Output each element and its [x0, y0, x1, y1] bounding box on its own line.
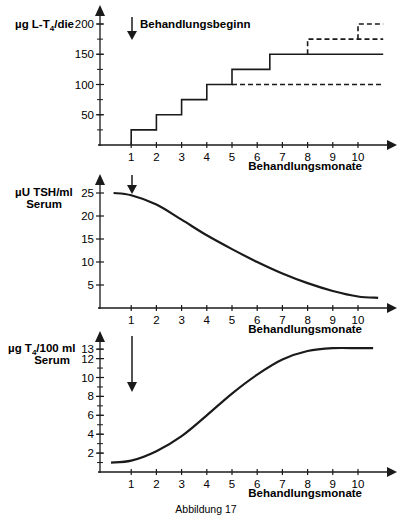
y-tick-label: 150: [75, 48, 94, 60]
series-line: [358, 24, 383, 39]
x-axis-label: Behandlungsmonate: [248, 323, 362, 335]
series: [111, 348, 373, 463]
x-axis-arrow-icon: [387, 303, 397, 313]
y-axis-label-line1: µU TSH/ml: [15, 186, 73, 198]
x-tick-label: 5: [229, 314, 235, 326]
x-tick-label: 1: [128, 314, 134, 326]
series: [114, 193, 379, 298]
x-tick-label: 2: [153, 478, 159, 490]
x-tick-label: 1: [128, 151, 134, 163]
figure: µg L-T4/die 50100150200 12345678910 Beha…: [0, 0, 401, 521]
treatment-start-arrow-icon: [127, 17, 137, 40]
y-tick-label: 10: [81, 372, 94, 384]
x-axis-label: Behandlungsmonate: [248, 487, 362, 499]
y-axis-label-line2: Serum: [26, 198, 62, 210]
chart-tsh: µU TSH/ml Serum 510152025 12345678910 Be…: [15, 174, 397, 335]
y-tick-label: 25: [81, 187, 94, 199]
y-axis-label-line2: Serum: [34, 354, 70, 366]
y-axis-arrow-icon: [95, 331, 105, 342]
y-tick-label: 8: [88, 390, 94, 402]
x-tick-label: 5: [229, 478, 235, 490]
y-axis-arrow-icon: [95, 174, 105, 185]
y-tick-label: 10: [81, 256, 94, 268]
y-tick-label: 20: [81, 210, 94, 222]
annotation-label: Behandlungsbeginn: [140, 18, 251, 30]
y-tick-label: 4: [88, 428, 95, 440]
y-axis-arrow-icon: [95, 5, 105, 16]
x-tick-label: 4: [204, 314, 211, 326]
series-line: [131, 54, 383, 145]
series-line: [114, 193, 379, 298]
y-tick-label: 50: [81, 109, 94, 121]
figure-caption: Abbildung 17: [175, 503, 236, 515]
x-axis-label: Behandlungsmonate: [248, 160, 362, 172]
x-tick-label: 4: [204, 151, 211, 163]
series-line: [111, 348, 373, 463]
treatment-start-arrow-icon: [127, 336, 137, 392]
x-tick-label: 2: [153, 314, 159, 326]
y-axis-label: µg L-T4/die: [15, 18, 74, 33]
x-tick-label: 3: [178, 314, 184, 326]
series: [131, 24, 383, 145]
y-tick-label: 200: [75, 18, 94, 30]
chart-dose: µg L-T4/die 50100150200 12345678910 Beha…: [15, 5, 397, 172]
x-tick-label: 3: [178, 151, 184, 163]
chart-t4: µg T4/100 ml Serum 2468101213 1234567891…: [8, 331, 397, 499]
x-tick-label: 4: [204, 478, 211, 490]
x-tick-label: 3: [178, 478, 184, 490]
x-axis-arrow-icon: [387, 467, 397, 477]
treatment-start-arrow-icon: [127, 175, 137, 194]
x-axis-arrow-icon: [387, 140, 397, 150]
x-tick-label: 5: [229, 151, 235, 163]
y-tick-label: 2: [88, 447, 94, 459]
y-tick-label: 6: [88, 409, 94, 421]
y-tick-label: 15: [81, 233, 94, 245]
x-tick-label: 2: [153, 151, 159, 163]
x-tick-label: 1: [128, 478, 134, 490]
y-tick-label: 5: [88, 279, 94, 291]
series-line: [308, 39, 384, 54]
y-tick-label: 100: [75, 79, 94, 91]
y-tick-label: 13: [81, 343, 94, 355]
